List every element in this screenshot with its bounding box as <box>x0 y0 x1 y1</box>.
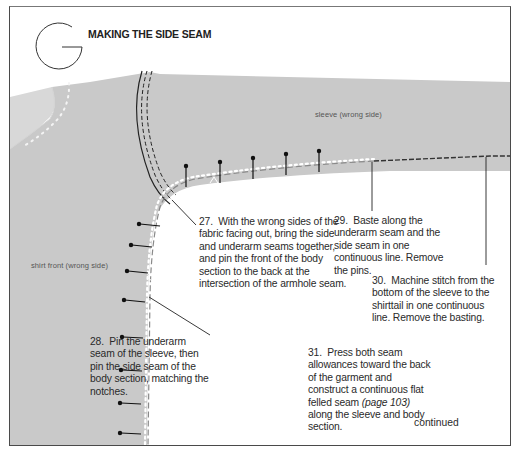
step-28: 28. Pin the underarm seam of the sleeve,… <box>90 336 210 398</box>
section-title: MAKING THE SIDE SEAM <box>88 28 211 40</box>
step-text: With the wrong sides of the fabric facin… <box>199 216 346 289</box>
step-number: 27. <box>199 216 213 227</box>
letter-g-circle-icon <box>36 23 82 69</box>
shirt-front-label: shirt front (wrong side) <box>31 261 108 270</box>
instruction-page: MAKING THE SIDE SEAM sleeve (wrong side)… <box>9 6 511 446</box>
step-text: along the sleeve and body section. <box>308 409 424 432</box>
step-text: Pin the underarm seam of the sleeve, the… <box>90 336 209 397</box>
step-29: 29. Baste along the underarm seam and th… <box>334 215 459 277</box>
leader-28 <box>149 297 210 335</box>
page-reference: (page 103) <box>362 397 410 408</box>
step-number: 28. <box>90 336 104 347</box>
step-number: 29. <box>334 215 348 226</box>
step-text: Baste along the underarm seam and the si… <box>334 215 443 276</box>
sleeve-label: sleeve (wrong side) <box>315 110 382 119</box>
step-27: 27. With the wrong sides of the fabric f… <box>199 216 349 290</box>
step-number: 31. <box>308 347 322 358</box>
step-text: Machine stitch from the bottom of the sl… <box>372 275 494 323</box>
step-30: 30. Machine stitch from the bottom of th… <box>372 275 504 325</box>
leader-27 <box>172 200 196 225</box>
step-number: 30. <box>372 275 386 286</box>
continued-label: continued <box>414 417 459 428</box>
